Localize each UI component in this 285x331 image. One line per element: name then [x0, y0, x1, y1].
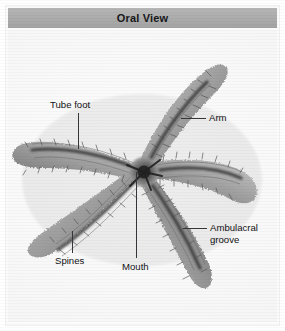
leader-line-spines [72, 231, 73, 253]
label-spines: Spines [55, 255, 84, 267]
label-tube-foot: Tube foot [50, 99, 90, 111]
leader-line-tube-foot [78, 113, 79, 149]
page-title: Oral View [117, 13, 168, 24]
label-mouth: Mouth [122, 261, 149, 273]
figure-image-area [8, 30, 277, 322]
figure-panel: Oral View [0, 0, 285, 331]
leader-line-arm [181, 118, 206, 119]
leader-line-mouth [136, 172, 137, 258]
starfish-photograph [8, 30, 277, 322]
label-arm: Arm [209, 112, 227, 124]
leader-line-ambulacral-groove [183, 228, 207, 229]
label-ambulacral-groove: Ambulacral groove [210, 222, 258, 245]
figure-header-bar: Oral View [8, 8, 277, 28]
